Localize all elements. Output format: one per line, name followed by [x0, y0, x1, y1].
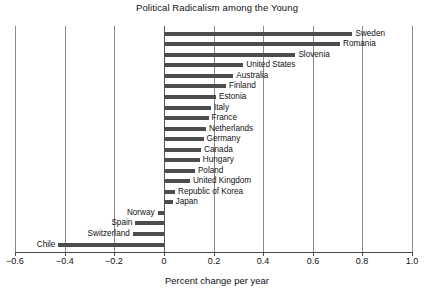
- bar-label: Australia: [236, 72, 268, 80]
- bar: [164, 200, 173, 204]
- x-tick-label: −0.6: [0, 256, 35, 266]
- bar: [164, 127, 206, 131]
- bar: [164, 179, 190, 183]
- bar: [164, 53, 296, 57]
- gridline-minus-0.4: [65, 26, 66, 252]
- bar: [164, 74, 233, 78]
- bar: [164, 63, 243, 67]
- bar: [158, 211, 164, 215]
- bar: [164, 42, 340, 46]
- bar: [164, 158, 200, 162]
- bar-label: Romania: [343, 40, 376, 48]
- chart-container: Political Radicalism among the Young −0.…: [0, 0, 434, 297]
- bar: [164, 95, 216, 99]
- x-tick-label: 0.8: [342, 256, 382, 266]
- bar-label: Poland: [198, 167, 224, 175]
- x-tick-label: 1.0: [392, 256, 432, 266]
- gridline-0.6: [313, 26, 314, 252]
- bar: [164, 106, 211, 110]
- bar-label: Japan: [176, 198, 198, 206]
- bar-label: Sweden: [355, 30, 385, 38]
- bar: [164, 137, 204, 141]
- bar-label: United States: [246, 61, 295, 69]
- bar: [164, 84, 226, 88]
- bar: [164, 116, 209, 120]
- bar-label: Italy: [214, 104, 229, 112]
- bar: [164, 32, 353, 36]
- bar-label: Netherlands: [209, 125, 253, 133]
- x-tick-label: 0.6: [293, 256, 333, 266]
- bar: [58, 243, 163, 247]
- bar-label: Estonia: [219, 93, 246, 101]
- bar-label: United Kingdom: [193, 177, 251, 185]
- bar-label: Canada: [204, 146, 233, 154]
- bar-label: Republic of Korea: [178, 188, 243, 196]
- bar: [164, 169, 195, 173]
- bar-label: Switzerland: [88, 230, 130, 238]
- x-tick-label: 0.2: [194, 256, 234, 266]
- bar: [164, 190, 175, 194]
- bar: [135, 221, 164, 225]
- bar: [133, 232, 164, 236]
- gridline-1.0: [412, 26, 413, 252]
- x-tick-label: −0.2: [94, 256, 134, 266]
- bar-label: Spain: [111, 219, 132, 227]
- bar-label: Slovenia: [298, 51, 329, 59]
- bar-label: Norway: [127, 209, 155, 217]
- x-tick-label: 0: [144, 256, 184, 266]
- x-axis-label: Percent change per year: [0, 275, 434, 286]
- gridline-0.8: [362, 26, 363, 252]
- bar-label: Finland: [229, 82, 256, 90]
- x-tick-label: 0.4: [243, 256, 283, 266]
- gridline-minus-0.6: [15, 26, 16, 252]
- bar-label: Chile: [37, 241, 56, 249]
- bar-label: Germany: [207, 135, 241, 143]
- bar: [164, 148, 201, 152]
- bar-label: Hungary: [203, 156, 234, 164]
- bar-label: France: [212, 114, 237, 122]
- chart-title: Political Radicalism among the Young: [0, 2, 434, 13]
- x-tick-label: −0.4: [45, 256, 85, 266]
